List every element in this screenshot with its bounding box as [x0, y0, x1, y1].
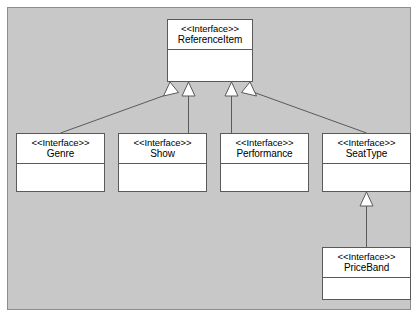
uml-class-show[interactable]: <<Interface>> Show	[118, 133, 207, 192]
uml-class-header-reference-item: <<Interface>> ReferenceItem	[168, 20, 252, 50]
uml-class-reference-item[interactable]: <<Interface>> ReferenceItem	[167, 19, 253, 82]
uml-class-body-performance	[221, 164, 308, 191]
uml-class-body-seat-type	[323, 164, 410, 191]
uml-stereotype-performance: <<Interface>>	[223, 137, 306, 148]
uml-class-diagram: <<Interface>> ReferenceItem <<Interface>…	[0, 0, 419, 323]
uml-class-name-show: Show	[121, 148, 204, 160]
uml-stereotype-seat-type: <<Interface>>	[325, 137, 408, 148]
uml-class-seat-type[interactable]: <<Interface>> SeatType	[322, 133, 411, 192]
uml-class-header-genre: <<Interface>> Genre	[17, 134, 104, 164]
uml-class-header-seat-type: <<Interface>> SeatType	[323, 134, 410, 164]
uml-class-body-show	[119, 164, 206, 191]
uml-class-performance[interactable]: <<Interface>> Performance	[220, 133, 309, 192]
uml-class-genre[interactable]: <<Interface>> Genre	[16, 133, 105, 192]
uml-class-name-seat-type: SeatType	[325, 148, 408, 160]
uml-stereotype-genre: <<Interface>>	[19, 137, 102, 148]
uml-stereotype-show: <<Interface>>	[121, 137, 204, 148]
uml-class-header-price-band: <<Interface>> PriceBand	[323, 248, 410, 278]
uml-class-name-reference-item: ReferenceItem	[170, 34, 250, 46]
uml-stereotype-reference-item: <<Interface>>	[170, 23, 250, 34]
uml-class-name-genre: Genre	[19, 148, 102, 160]
uml-class-name-price-band: PriceBand	[325, 262, 408, 274]
uml-class-body-genre	[17, 164, 104, 191]
uml-class-name-performance: Performance	[223, 148, 306, 160]
uml-stereotype-price-band: <<Interface>>	[325, 251, 408, 262]
uml-class-body-price-band	[323, 278, 410, 299]
uml-class-header-performance: <<Interface>> Performance	[221, 134, 308, 164]
uml-class-price-band[interactable]: <<Interface>> PriceBand	[322, 247, 411, 300]
uml-class-body-reference-item	[168, 50, 252, 81]
uml-class-header-show: <<Interface>> Show	[119, 134, 206, 164]
